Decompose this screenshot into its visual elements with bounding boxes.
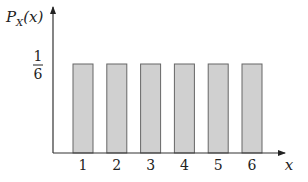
bar-2 <box>107 64 127 153</box>
x-tick-label-6: 6 <box>248 157 257 173</box>
y-tick-denominator: 6 <box>34 66 43 82</box>
bar-1 <box>73 64 93 153</box>
bar-6 <box>242 64 262 153</box>
x-tick-labels: 123456 <box>79 157 257 173</box>
x-tick-label-2: 2 <box>112 157 121 173</box>
x-tick-label-4: 4 <box>180 157 189 173</box>
x-tick-label-3: 3 <box>146 157 155 173</box>
y-tick-numerator: 1 <box>34 48 43 64</box>
bar-chart: PX(x) 1 6 123456 x <box>0 0 308 182</box>
bar-4 <box>174 64 194 153</box>
y-axis-label: PX(x) <box>5 8 44 28</box>
bar-3 <box>141 64 161 153</box>
x-tick-label-5: 5 <box>214 157 223 173</box>
x-tick-label-1: 1 <box>79 157 88 173</box>
bars-group <box>73 64 262 153</box>
x-axis-label: x <box>285 156 294 174</box>
bar-5 <box>208 64 228 153</box>
